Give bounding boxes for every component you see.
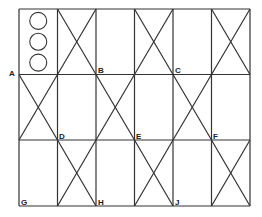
grid-diagram xyxy=(0,0,262,217)
point-label-d: D xyxy=(59,133,65,141)
point-label-h: H xyxy=(98,199,104,207)
point-label-e: E xyxy=(136,133,141,141)
point-label-c: C xyxy=(175,67,181,75)
circle-shape xyxy=(30,33,47,50)
point-label-b: B xyxy=(98,67,104,75)
circle-shape xyxy=(30,54,47,71)
point-label-g: G xyxy=(21,199,27,207)
point-label-j: J xyxy=(175,199,179,207)
circle-shape xyxy=(30,12,47,29)
point-label-f: F xyxy=(213,133,218,141)
point-label-a: A xyxy=(9,70,15,78)
